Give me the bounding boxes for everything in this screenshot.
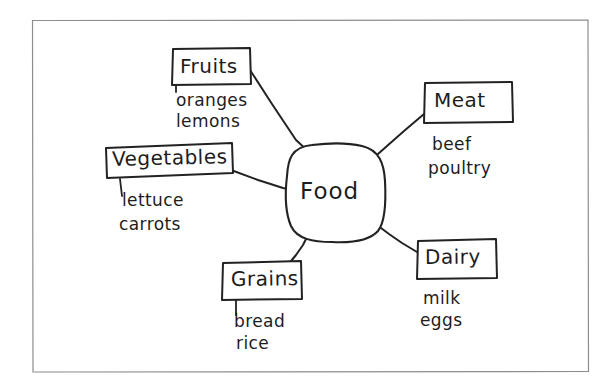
child-item-lettuce: lettuce xyxy=(122,190,184,210)
node-label-dairy: Dairy xyxy=(425,244,481,269)
child-item-poultry: poultry xyxy=(428,158,491,178)
node-label-meat: Meat xyxy=(434,88,486,112)
node-label-fruits: Fruits xyxy=(180,54,238,78)
child-item-lemons: lemons xyxy=(176,111,240,131)
child-item-beef: beef xyxy=(432,134,471,154)
child-item-bread: bread xyxy=(234,311,285,331)
connector-vegetables xyxy=(231,170,292,190)
node-label-vegetables: Vegetables xyxy=(112,144,228,171)
center-node-label: Food xyxy=(300,178,359,204)
connector-dairy xyxy=(381,228,417,252)
child-item-milk: milk xyxy=(423,288,460,308)
concept-map-canvas: Food Fruits oranges lemons Vegetables le… xyxy=(0,0,614,389)
child-item-rice: rice xyxy=(236,333,269,353)
child-item-eggs: eggs xyxy=(420,310,463,330)
child-item-oranges: oranges xyxy=(176,90,248,110)
connector-meat xyxy=(378,114,424,154)
connector-fruits xyxy=(250,70,309,152)
node-label-grains: Grains xyxy=(231,266,299,291)
child-item-carrots: carrots xyxy=(119,214,181,234)
